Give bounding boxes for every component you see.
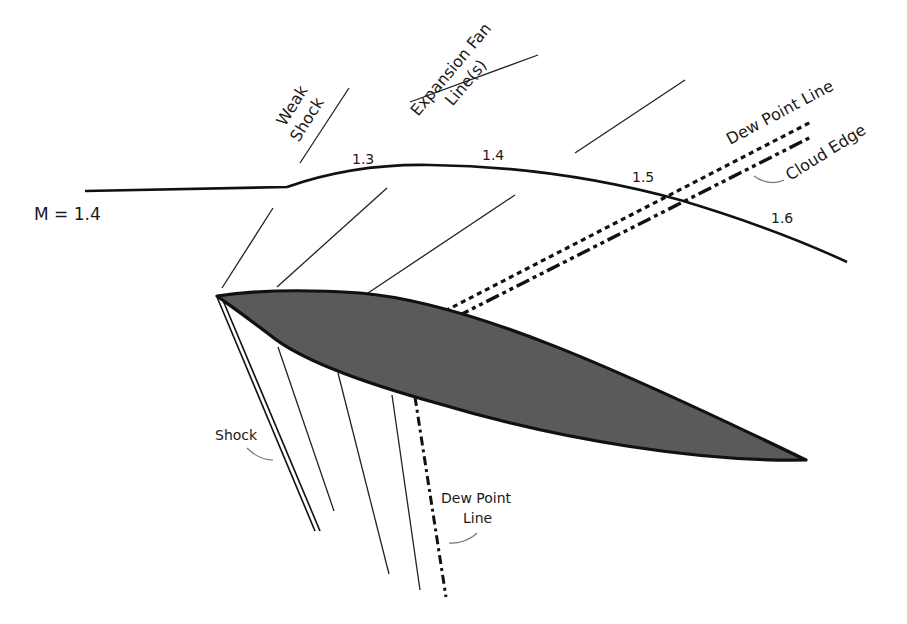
cloud-edge-line xyxy=(456,137,811,317)
freestream-mach-label: M = 1.4 xyxy=(34,204,101,224)
dew-point-lower-label-1: Dew Point xyxy=(441,490,512,506)
cloud-edge-label: Cloud Edge xyxy=(782,120,869,184)
expansion-line-lower-a xyxy=(278,347,334,511)
streamline xyxy=(85,165,847,262)
expansion-fan-line-lower-2 xyxy=(365,195,515,295)
expansion-line-lower-b xyxy=(338,373,389,574)
expansion-fan-line-lower-1 xyxy=(277,188,387,287)
mach-label-1-6: 1.6 xyxy=(771,210,793,226)
dew-point-lower-leader xyxy=(449,533,477,543)
mach-label-1-4: 1.4 xyxy=(482,147,504,163)
mach-label-1-3: 1.3 xyxy=(352,151,374,167)
dew-point-lower-label-2: Line xyxy=(463,510,492,526)
expansion-line-lower-c xyxy=(392,395,420,590)
airfoil-flow-diagram: M = 1.4 1.3 1.4 1.5 1.6 Weak Shock Expan… xyxy=(0,0,907,624)
weak-shock-line-lower xyxy=(222,208,273,288)
mach-label-1-5: 1.5 xyxy=(632,169,654,185)
shock-leader xyxy=(247,448,273,460)
shock-label: Shock xyxy=(215,427,258,443)
expansion-fan-line-upper-2 xyxy=(575,80,685,153)
cloud-edge-leader xyxy=(754,176,784,183)
dew-point-upper-label: Dew Point Line xyxy=(723,76,837,148)
airfoil xyxy=(217,291,806,460)
